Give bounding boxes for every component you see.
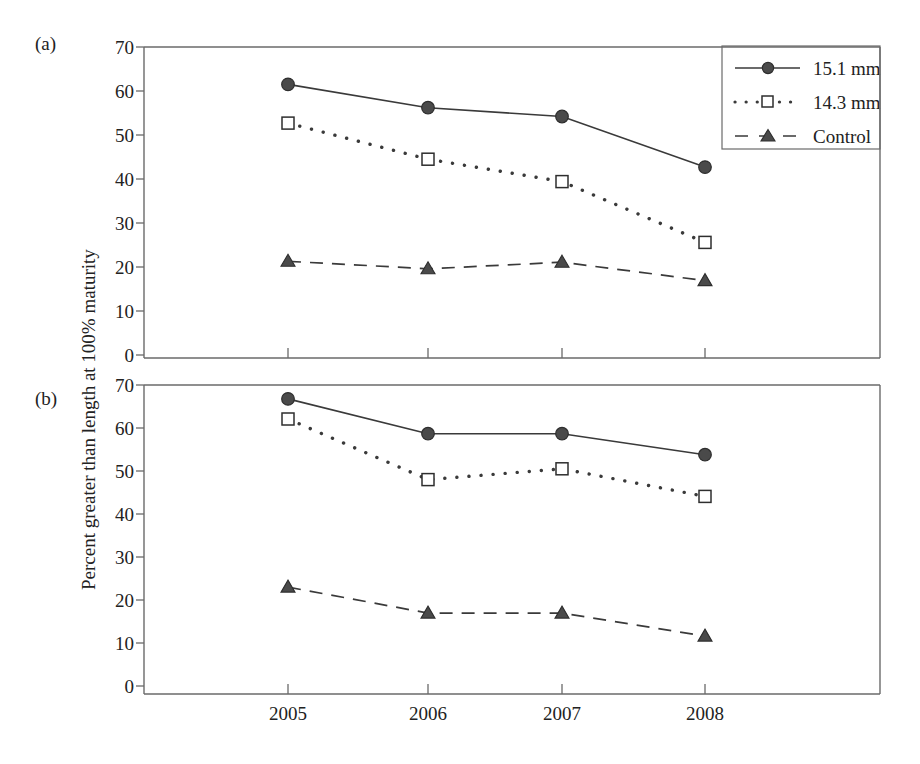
panel-b-axes bbox=[136, 385, 880, 694]
series-line-dashed bbox=[288, 587, 705, 636]
panel-b-x-ticks bbox=[288, 684, 705, 694]
data-point-marker bbox=[556, 427, 569, 440]
panel-b-series-14-3mm bbox=[282, 413, 711, 502]
data-point-marker bbox=[422, 153, 434, 165]
data-point-marker bbox=[555, 606, 569, 618]
data-point-marker bbox=[281, 580, 295, 592]
data-point-marker bbox=[422, 474, 434, 486]
data-point-marker bbox=[556, 176, 568, 188]
legend-marker-filled-circle bbox=[762, 62, 773, 73]
series-line-dotted bbox=[288, 419, 705, 496]
panel-a-series-14-3mm bbox=[282, 117, 711, 248]
data-point-marker bbox=[556, 110, 569, 123]
data-point-marker bbox=[699, 161, 712, 174]
data-point-marker bbox=[698, 274, 712, 286]
data-point-marker bbox=[281, 254, 295, 266]
panel-b-series-15-1mm bbox=[282, 393, 712, 461]
data-point-marker bbox=[282, 117, 294, 129]
series-line-dashed bbox=[288, 261, 705, 280]
plot-svg bbox=[0, 0, 920, 764]
data-point-marker bbox=[555, 255, 569, 267]
data-point-marker bbox=[556, 463, 568, 475]
panel-b-y-ticks bbox=[136, 385, 144, 686]
data-point-marker bbox=[282, 393, 295, 406]
panel-a-series-control bbox=[281, 254, 712, 285]
data-point-marker bbox=[699, 448, 712, 461]
panel-b-series-control bbox=[281, 580, 712, 641]
data-point-marker bbox=[699, 490, 711, 502]
data-point-marker bbox=[282, 78, 295, 91]
panel-a-axes bbox=[136, 47, 880, 358]
data-point-marker bbox=[698, 629, 712, 641]
legend bbox=[722, 46, 880, 149]
series-line-solid bbox=[288, 84, 705, 167]
data-point-marker bbox=[699, 236, 711, 248]
data-point-marker bbox=[422, 101, 435, 114]
panel-a-x-ticks bbox=[288, 348, 705, 358]
legend-marker-open-square bbox=[762, 96, 773, 107]
series-line-dotted bbox=[288, 123, 705, 242]
figure-canvas: Percent greater than length at 100% matu… bbox=[0, 0, 920, 764]
series-line-solid bbox=[288, 399, 705, 455]
panel-a-series-15-1mm bbox=[282, 78, 712, 173]
legend-border bbox=[722, 46, 880, 149]
panel-a-y-ticks bbox=[136, 47, 144, 355]
data-point-marker bbox=[282, 413, 294, 425]
data-point-marker bbox=[422, 427, 435, 440]
